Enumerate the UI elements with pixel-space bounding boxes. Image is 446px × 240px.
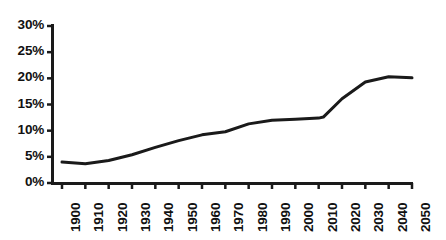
x-axis-tick-label: 1920 (115, 203, 130, 232)
y-axis-tick-label: 0% (0, 174, 44, 189)
x-axis-tick-label: 1900 (68, 203, 83, 232)
x-axis-tick-label: 1910 (91, 203, 106, 232)
x-axis-tick-label: 2030 (371, 203, 386, 232)
data-series-line (62, 77, 412, 164)
y-axis-tick-label: 25% (0, 43, 44, 58)
series-group (62, 77, 412, 164)
x-axis-tick-label: 1930 (138, 203, 153, 232)
x-axis-tick-label: 2000 (301, 203, 316, 232)
x-axis-tick-label: 1960 (208, 203, 223, 232)
x-axis-tick-label: 1970 (231, 203, 246, 232)
y-axis-tick-label: 5% (0, 148, 44, 163)
chart-container: 0%5%10%15%20%25%30% 19001910192019301940… (0, 0, 446, 240)
x-axis-tick-label: 2010 (325, 203, 340, 232)
x-axis-tick-label: 2050 (418, 203, 433, 232)
y-axis-tick-label: 30% (0, 17, 44, 32)
x-axis-tick-label: 2020 (348, 203, 363, 232)
x-axis-tick-label: 1940 (161, 203, 176, 232)
y-axis-tick-label: 20% (0, 69, 44, 84)
x-axis-tick-label: 1980 (255, 203, 270, 232)
x-axis-tick-label: 2040 (395, 203, 410, 232)
x-axis-tick-label: 1950 (185, 203, 200, 232)
y-axis-tick-label: 10% (0, 122, 44, 137)
x-axis-tick-label: 1990 (278, 203, 293, 232)
y-axis-tick-label: 15% (0, 96, 44, 111)
